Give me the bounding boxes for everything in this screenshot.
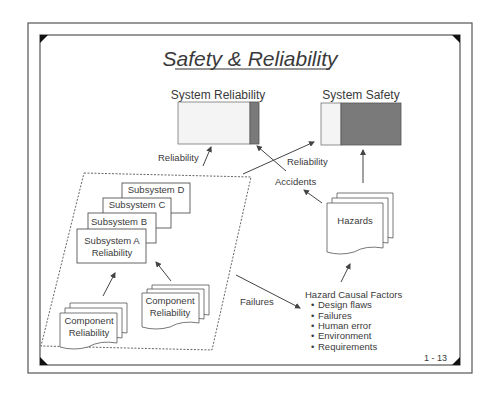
- factor-bullet-1: •: [311, 299, 314, 310]
- svg-text:Reliability: Reliability: [92, 247, 133, 258]
- factor-item: Design flaws: [318, 299, 372, 310]
- arrow-component-right-to-subsystem: [156, 262, 171, 281]
- arrow-to-system-reliability: [203, 147, 211, 166]
- factor-bullet-5: •: [311, 341, 314, 352]
- reliability-left-label: Reliability: [158, 152, 199, 163]
- accidents-label: Accidents: [275, 176, 316, 187]
- arrow-hazards-to-accidents: [304, 190, 322, 203]
- arrow-factors-to-hazards: [341, 264, 350, 282]
- component-reliability-right: Component Reliability: [142, 285, 209, 329]
- hazards-document: Hazards: [327, 193, 393, 254]
- subsystem-a-box: Subsystem A Reliability: [77, 229, 146, 263]
- svg-text:Reliability: Reliability: [150, 307, 191, 318]
- safety-bar-light: [321, 103, 341, 145]
- svg-text:Subsystem C: Subsystem C: [109, 199, 166, 210]
- component-reliability-left: Component Reliability: [60, 303, 127, 349]
- page-number: 1 - 13: [424, 353, 447, 363]
- svg-text:Hazards: Hazards: [337, 215, 373, 226]
- svg-text:Reliability: Reliability: [69, 327, 110, 338]
- system-reliability-label: System Reliability: [171, 88, 266, 102]
- system-safety-label: System Safety: [322, 88, 399, 102]
- corner-tl-icon: [40, 35, 48, 43]
- corner-br-icon: [452, 357, 460, 365]
- svg-text:Component: Component: [64, 315, 113, 326]
- svg-text:Component: Component: [145, 295, 194, 306]
- hazard-causal-factors: Hazard Causal Factors • Design flaws • F…: [305, 289, 402, 352]
- arrow-accidents-to-reliability: [257, 146, 286, 171]
- factor-item: Environment: [318, 330, 372, 341]
- safety-bar-dark: [341, 103, 401, 145]
- reliability-right-label: Reliability: [287, 156, 328, 167]
- svg-text:Subsystem B: Subsystem B: [91, 216, 147, 227]
- corner-bl-icon: [40, 357, 48, 365]
- reliability-bar-light: [178, 102, 250, 144]
- factor-bullet-4: •: [311, 330, 314, 341]
- reliability-bar-dark: [250, 102, 259, 144]
- slide-title: Safety & Reliability: [162, 47, 339, 70]
- corner-tr-icon: [452, 35, 460, 43]
- failures-label: Failures: [240, 296, 274, 307]
- factor-item: Requirements: [318, 341, 377, 352]
- arrow-component-left-to-subsystem: [103, 273, 115, 296]
- svg-text:Subsystem A: Subsystem A: [84, 235, 140, 246]
- svg-text:Subsystem D: Subsystem D: [128, 184, 185, 195]
- slide-canvas: Safety & Reliability System Reliability …: [0, 0, 497, 399]
